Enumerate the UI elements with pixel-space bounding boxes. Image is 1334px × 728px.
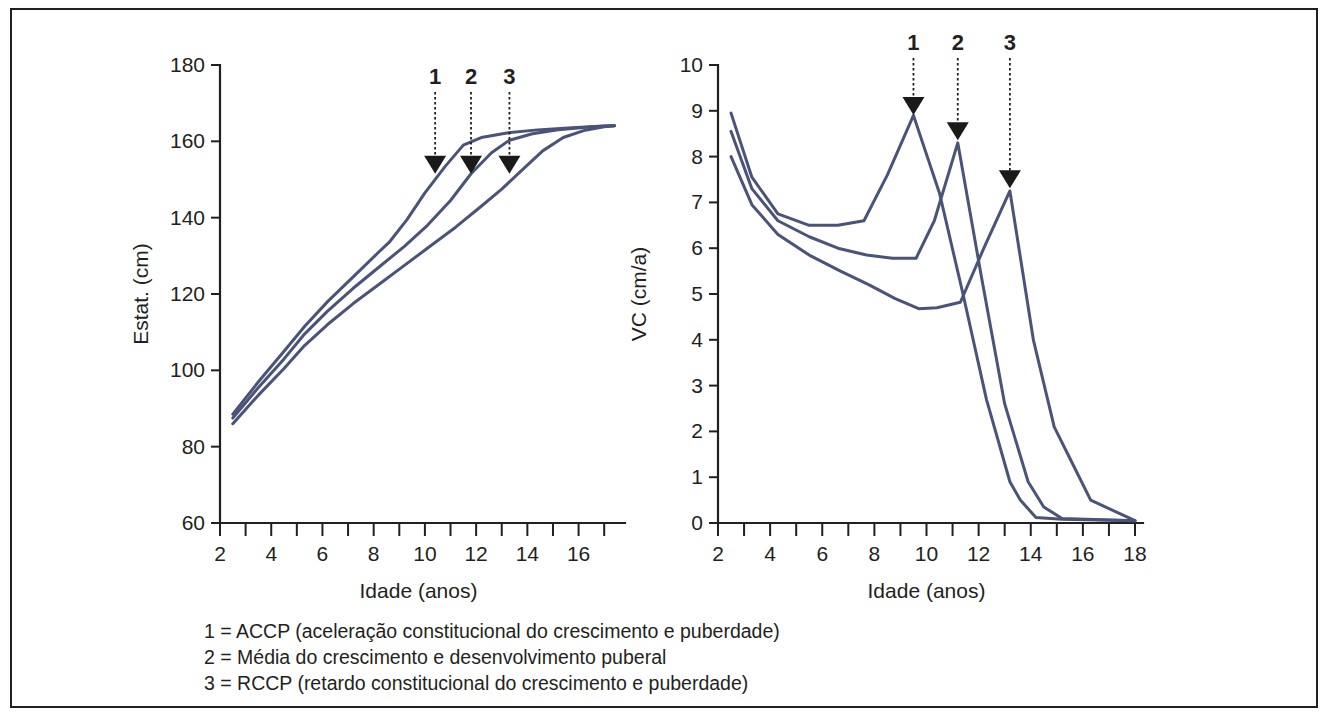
- x-tick-label: 8: [869, 542, 881, 565]
- x-tick-label: 10: [413, 542, 436, 565]
- curve-RCCP: [731, 157, 1135, 521]
- annotation-arrowhead-3: [498, 156, 520, 174]
- annotation-number-2: 2: [952, 30, 964, 55]
- y-tick-label: 160: [170, 129, 205, 152]
- x-tick-label: 14: [1019, 542, 1043, 565]
- x-tick-label: 4: [265, 542, 277, 565]
- legend-block: 1 = ACCP (aceleração constitucional do c…: [204, 618, 780, 696]
- y-tick-label: 3: [691, 374, 703, 397]
- chart-height-velocity-for-age: 01234567891024681012141618Idade (anos)VC…: [627, 30, 1147, 602]
- y-tick-label: 0: [691, 511, 703, 534]
- y-tick-label: 10: [680, 53, 703, 76]
- x-tick-label: 16: [567, 542, 590, 565]
- curve-Media: [233, 126, 615, 418]
- annotation-number-3: 3: [1004, 30, 1016, 55]
- y-tick-label: 2: [691, 419, 703, 442]
- y-tick-label: 1: [691, 465, 703, 488]
- x-tick-label: 8: [368, 542, 380, 565]
- x-tick-label: 2: [712, 542, 724, 565]
- curves-height-velocity-for-age: [731, 113, 1135, 521]
- y-tick-label: 6: [691, 236, 703, 259]
- y-tick-label: 7: [691, 190, 703, 213]
- annotation-arrowhead-2: [947, 122, 969, 140]
- charts-area: 6080100120140160180246810121416Idade (an…: [12, 10, 1320, 710]
- annotation-number-1: 1: [429, 64, 441, 89]
- x-tick-label: 10: [915, 542, 938, 565]
- annotation-number-1: 1: [907, 30, 919, 55]
- x-axis-title: Idade (anos): [360, 579, 478, 602]
- annotation-number-3: 3: [503, 64, 515, 89]
- annotation-arrowhead-1: [902, 97, 924, 115]
- y-tick-label: 80: [182, 435, 205, 458]
- y-tick-label: 4: [691, 328, 703, 351]
- y-tick-label: 140: [170, 206, 205, 229]
- y-axis-title: Estat. (cm): [129, 243, 152, 345]
- x-tick-label: 16: [1071, 542, 1094, 565]
- y-tick-label: 180: [170, 53, 205, 76]
- y-tick-label: 5: [691, 282, 703, 305]
- legend-line-2: 2 = Média do crescimento e desenvolvimen…: [204, 644, 780, 670]
- legend-line-1: 1 = ACCP (aceleração constitucional do c…: [204, 618, 780, 644]
- axes-height-velocity-for-age: 01234567891024681012141618: [680, 53, 1147, 565]
- y-tick-label: 9: [691, 99, 703, 122]
- axis-lines: [220, 65, 625, 523]
- y-tick-label: 8: [691, 145, 703, 168]
- x-tick-label: 4: [764, 542, 776, 565]
- x-tick-label: 2: [214, 542, 226, 565]
- curve-RCCP: [233, 126, 615, 424]
- growth-charts-svg: 6080100120140160180246810121416Idade (an…: [12, 10, 1320, 710]
- y-tick-label: 120: [170, 282, 205, 305]
- annotation-arrowhead-3: [999, 170, 1021, 188]
- y-tick-label: 60: [182, 511, 205, 534]
- x-tick-label: 6: [816, 542, 828, 565]
- y-axis-title: VC (cm/a): [627, 247, 650, 342]
- x-tick-label: 12: [464, 542, 487, 565]
- x-tick-label: 12: [967, 542, 990, 565]
- curves-height-for-age: [233, 126, 615, 424]
- x-tick-label: 14: [516, 542, 540, 565]
- figure-border: 6080100120140160180246810121416Idade (an…: [10, 8, 1318, 708]
- axis-lines: [718, 65, 1143, 523]
- curve-ACCP: [233, 126, 615, 415]
- chart-height-for-age: 6080100120140160180246810121416Idade (an…: [129, 53, 625, 602]
- curve-ACCP: [731, 113, 1135, 521]
- annotations-height-for-age: 123: [424, 64, 520, 174]
- x-axis-title: Idade (anos): [868, 579, 986, 602]
- x-tick-label: 18: [1123, 542, 1146, 565]
- curve-Media: [731, 131, 1135, 520]
- annotation-number-2: 2: [465, 64, 477, 89]
- y-tick-label: 100: [170, 358, 205, 381]
- x-tick-label: 6: [317, 542, 329, 565]
- legend-line-3: 3 = RCCP (retardo constitucional do cres…: [204, 670, 780, 696]
